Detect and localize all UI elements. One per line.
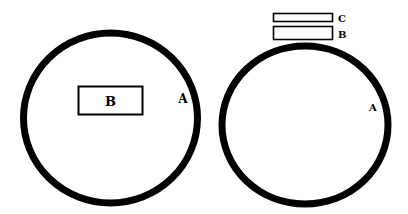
right-box-b xyxy=(274,27,333,40)
right-box-c-label: C xyxy=(338,13,346,24)
left-circle-a xyxy=(24,33,198,203)
right-circle-a-label: A xyxy=(368,102,377,113)
right-box-c xyxy=(274,14,333,22)
right-circle-a xyxy=(222,46,388,204)
left-circle-a-label: A xyxy=(177,92,188,106)
left-figure: B A xyxy=(24,33,198,203)
left-box-b-label: B xyxy=(105,94,116,109)
diagram-canvas: B A C B A xyxy=(0,0,408,214)
right-figure: C B A xyxy=(222,13,388,204)
right-box-b-label: B xyxy=(338,29,346,40)
